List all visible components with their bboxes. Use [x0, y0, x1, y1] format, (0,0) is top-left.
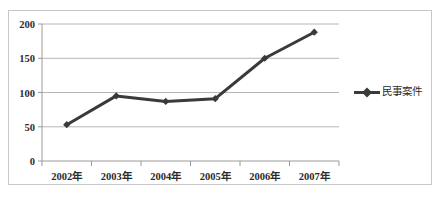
y-label-0: 0 — [30, 156, 35, 167]
x-label-2002: 2002年 — [51, 170, 83, 182]
x-label-2003: 2003年 — [101, 170, 133, 182]
chart-container: 200 150 100 50 0 2002年 2003年 2004年 2005年… — [8, 10, 432, 185]
x-label-2005: 2005年 — [200, 170, 232, 182]
line-chart-svg: 200 150 100 50 0 2002年 2003年 2004年 2005年… — [9, 11, 431, 184]
legend-label-civil-cases: 民事案件 — [382, 85, 422, 97]
y-label-150: 150 — [19, 53, 35, 64]
x-label-2006: 2006年 — [249, 170, 281, 182]
y-label-200: 200 — [19, 19, 35, 30]
chart-background — [9, 11, 431, 184]
x-label-2004: 2004年 — [150, 170, 182, 182]
x-label-2007: 2007年 — [299, 170, 331, 182]
y-label-100: 100 — [19, 88, 35, 99]
chart-plot-wrapper: 200 150 100 50 0 2002年 2003年 2004年 2005年… — [9, 11, 431, 184]
y-label-50: 50 — [25, 122, 36, 133]
